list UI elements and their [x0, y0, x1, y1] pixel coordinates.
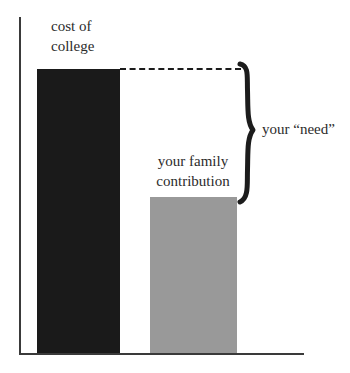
bar-cost-of-college: [37, 69, 120, 353]
dashed-cost-level-line: [120, 68, 241, 70]
bar-family-contribution: [150, 197, 237, 353]
y-axis-line: [19, 17, 21, 355]
label-your-need: your “need”: [262, 119, 335, 139]
label-family-contribution: your family contribution: [144, 151, 242, 191]
label-cost-of-college: cost of college: [51, 16, 94, 56]
need-calculation-bar-chart: cost of college your family contribution…: [0, 0, 350, 373]
x-axis-line: [19, 353, 304, 355]
